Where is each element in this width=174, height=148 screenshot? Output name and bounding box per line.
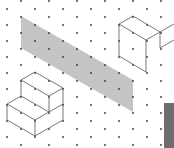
edge	[160, 40, 174, 48]
grid-dot	[146, 8, 148, 10]
grid-dot	[160, 96, 162, 98]
grid-dot	[62, 40, 64, 42]
edge	[21, 80, 49, 96]
grid-dot	[160, 16, 162, 18]
grid-dot	[104, 144, 106, 146]
grid-dot	[34, 56, 36, 58]
grid-dot	[20, 16, 22, 18]
grid-dot	[6, 40, 8, 42]
edge	[49, 88, 63, 96]
grid-dot	[160, 112, 162, 114]
edge	[133, 16, 160, 32]
grid-dot	[160, 128, 162, 130]
grid-dot	[132, 48, 134, 50]
grid-dot	[76, 128, 78, 130]
grid-dot	[160, 144, 162, 146]
grid-dot	[132, 128, 134, 130]
grid-dot	[160, 48, 162, 50]
grid-dot	[104, 64, 106, 66]
edge	[49, 104, 63, 112]
grid-dot	[48, 0, 50, 2]
grid-dot	[48, 64, 50, 66]
edge	[35, 72, 63, 88]
grid-dot	[62, 24, 64, 26]
grid-dot	[132, 0, 134, 2]
grid-dot	[6, 88, 8, 90]
grid-dot	[20, 144, 22, 146]
grid-dot	[118, 72, 120, 74]
grid-dot	[160, 80, 162, 82]
grid-dot	[104, 32, 106, 34]
cube	[119, 16, 174, 72]
grid-dot	[160, 64, 162, 66]
grid-dot	[76, 64, 78, 66]
grid-dot	[146, 72, 148, 74]
grid-dot	[34, 8, 36, 10]
grid-dot	[20, 64, 22, 66]
edge	[21, 72, 35, 80]
grid-dot	[48, 144, 50, 146]
shaded-regions	[21, 16, 174, 148]
grid-dot	[76, 112, 78, 114]
edge	[119, 16, 133, 24]
grid-dot	[20, 32, 22, 34]
edge	[7, 120, 35, 136]
grid-dot	[90, 136, 92, 138]
edge	[160, 24, 174, 32]
grid-dot	[90, 120, 92, 122]
grid-dot	[90, 24, 92, 26]
grid-dot	[76, 32, 78, 34]
grid-dot	[132, 112, 134, 114]
grid-dot	[104, 112, 106, 114]
grid-dot	[118, 8, 120, 10]
grid-dot	[132, 80, 134, 82]
grid-dot	[62, 56, 64, 58]
grid-dot	[76, 0, 78, 2]
grid-dot	[104, 16, 106, 18]
grid-dot	[146, 104, 148, 106]
edge	[146, 32, 160, 40]
grid-dot	[146, 88, 148, 90]
grid-dot	[132, 96, 134, 98]
grid-dot	[6, 72, 8, 74]
grid-dot	[76, 48, 78, 50]
grid-dot	[118, 88, 120, 90]
grid-dot	[6, 24, 8, 26]
edge	[7, 96, 21, 104]
grid-dot	[76, 144, 78, 146]
edge	[119, 24, 146, 40]
grid-dot	[118, 104, 120, 106]
grid-dot	[118, 136, 120, 138]
grid-dot	[48, 32, 50, 34]
grid-dot	[104, 128, 106, 130]
grid-dot	[48, 16, 50, 18]
edge	[21, 96, 35, 104]
grid-dot	[90, 8, 92, 10]
grid-dot	[104, 48, 106, 50]
grid-dot	[76, 96, 78, 98]
grid-dot	[146, 120, 148, 122]
grid-dot	[90, 72, 92, 74]
isometric-drawing	[0, 0, 174, 148]
staircase	[7, 72, 63, 136]
grid-dot	[90, 40, 92, 42]
grid-dot	[76, 16, 78, 18]
side-panel	[164, 103, 174, 148]
grid-dot	[6, 56, 8, 58]
grid-dot	[90, 88, 92, 90]
edge	[7, 104, 35, 120]
grid-dot	[90, 104, 92, 106]
grid-dot	[34, 40, 36, 42]
grid-dot	[132, 144, 134, 146]
edge	[119, 56, 146, 72]
grid-dot	[34, 24, 36, 26]
grid-dot	[62, 72, 64, 74]
grid-dot	[6, 8, 8, 10]
grid-dot	[6, 136, 8, 138]
grid-dot	[118, 120, 120, 122]
grid-dot	[160, 0, 162, 2]
edge	[35, 112, 49, 120]
edge	[35, 104, 49, 112]
grid-dot	[146, 136, 148, 138]
grid-dot	[104, 80, 106, 82]
